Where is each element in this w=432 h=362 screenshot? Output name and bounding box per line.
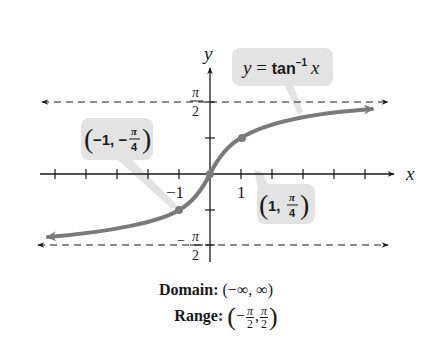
svg-text:): ) [300,189,309,220]
svg-text:π: π [131,125,138,137]
svg-text:1,: 1, [268,197,281,214]
callout-curve-label: y = tan−1x [232,48,333,86]
x-axis-label: x [405,163,415,184]
svg-text:4: 4 [289,207,296,219]
tick-label-neg1: −1 [166,183,184,202]
svg-text:π: π [192,85,200,100]
svg-text:2: 2 [192,248,199,263]
tick-label-1: 1 [237,183,246,202]
svg-text:π: π [192,229,200,244]
arctan-graph: y x −1 1 π 2 − π 2 y = tan−1x ( −1, − π … [0,0,432,290]
callout-tail-curve [283,82,303,114]
svg-text:4: 4 [131,141,138,153]
domain-label: Domain: [159,281,219,298]
range-upper-fraction: π2 [260,305,268,330]
svg-text:(: ( [259,189,268,220]
point-neg1 [175,206,183,214]
y-axis-label: y [202,43,213,64]
svg-text:−: − [177,233,185,248]
callout-point-pos: ( 1, π 4 ) [257,184,315,224]
callout-point-neg: ( −1, − π 4 ) [81,118,153,160]
svg-text:2: 2 [192,104,199,119]
domain-value: (−∞, ∞) [223,281,274,298]
point-origin [206,170,214,178]
range-line: Range: (−π2,π2) [0,302,432,332]
svg-text:π: π [289,191,296,203]
svg-text:(: ( [84,123,93,154]
range-lower-fraction: π2 [246,305,254,330]
point-pos1 [238,134,246,142]
domain-line: Domain: (−∞, ∞) [0,281,432,299]
range-label: Range: [174,307,223,324]
tick-label-neg-pi-over-2: − π 2 [177,229,203,263]
svg-text:): ) [142,123,151,154]
svg-text:−1, −: −1, − [93,131,127,148]
